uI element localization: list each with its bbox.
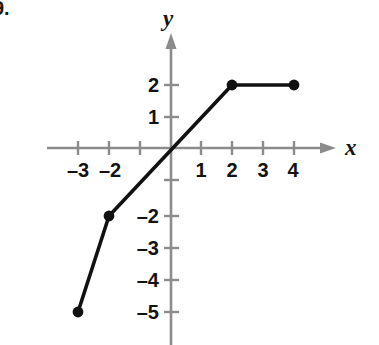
- y-tick-label--4: –4: [137, 270, 159, 290]
- x-tick-label--2: –2: [99, 160, 121, 180]
- coordinate-plane-graph: [0, 0, 379, 345]
- y-tick-label-2: 2: [148, 75, 159, 95]
- y-axis-label: y: [163, 7, 173, 30]
- y-tick-label--2: –2: [137, 206, 159, 226]
- x-tick-label-3: 3: [257, 160, 268, 180]
- x-tick-label--3: –3: [67, 160, 89, 180]
- y-tick-label-1: 1: [148, 107, 159, 127]
- data-point-4-2: [289, 80, 300, 91]
- x-tick-label-1: 1: [195, 160, 206, 180]
- y-tick-label--5: –5: [137, 302, 159, 322]
- y-tick-label--3: –3: [137, 238, 159, 258]
- data-point--3--5: [73, 307, 84, 318]
- data-point-2-2: [227, 80, 238, 91]
- x-tick-label-4: 4: [287, 160, 298, 180]
- y-axis-arrowhead: [166, 33, 177, 49]
- figure-canvas: 9.: [0, 0, 379, 345]
- x-axis-label: x: [345, 136, 357, 159]
- x-tick-label-2: 2: [226, 160, 237, 180]
- data-point--2--2: [104, 211, 115, 222]
- x-axis-arrowhead: [320, 143, 336, 154]
- function-curve: [78, 85, 294, 312]
